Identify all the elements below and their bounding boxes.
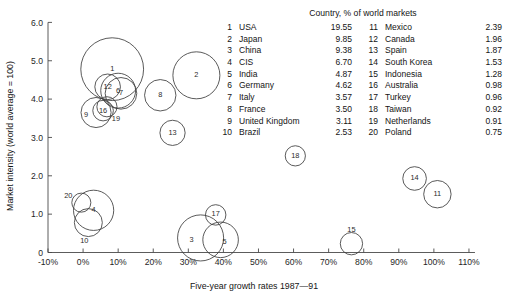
legend-row: 14South Korea1.53 [362, 57, 502, 68]
y-tick-label: 2.0 [31, 171, 43, 181]
y-tick-label: 5.0 [31, 56, 43, 66]
legend-value: 6.70 [326, 57, 352, 68]
legend-rank: 1 [216, 22, 232, 33]
bubble-label-5: 5 [223, 237, 227, 246]
legend-rank: 11 [362, 22, 378, 33]
bubble-label-16: 16 [99, 106, 107, 115]
legend-row: 16Australia0.98 [362, 80, 502, 91]
legend: Country, % of world markets 1USA19.552Ja… [216, 8, 504, 138]
bubble-chart: 1234567891011121314151617181920 -10%0%10… [0, 0, 508, 294]
x-tick-label: 90% [390, 257, 408, 267]
legend-rank: 13 [362, 45, 378, 56]
legend-value: 0.75 [476, 127, 502, 138]
legend-value: 1.87 [476, 45, 502, 56]
legend-value: 1.28 [476, 69, 502, 80]
legend-rank: 18 [362, 104, 378, 115]
legend-column-left: 1USA19.552Japan9.853China9.384CIS6.705In… [216, 22, 352, 138]
bubble-label-10: 10 [80, 236, 88, 245]
legend-row: 4CIS6.70 [216, 57, 352, 68]
legend-rank: 3 [216, 45, 232, 56]
legend-row: 15Indonesia1.28 [362, 69, 502, 80]
legend-country: Brazil [232, 127, 326, 138]
legend-value: 19.55 [326, 22, 352, 33]
legend-value: 3.57 [326, 92, 352, 103]
x-axis-tick-labels: -10%0%10%20%30%40%50%60%70%80%90%100%110… [38, 257, 480, 267]
legend-value: 3.50 [326, 104, 352, 115]
legend-value: 9.85 [326, 34, 352, 45]
legend-row: 12Canada1.96 [362, 34, 502, 45]
legend-country: Indonesia [378, 69, 476, 80]
bubble-label-11: 11 [434, 189, 442, 198]
legend-value: 4.87 [326, 69, 352, 80]
bubble-china [178, 215, 224, 261]
y-axis-tick-labels: 01.02.03.04.05.06.0 [31, 18, 43, 258]
legend-value: 0.92 [476, 104, 502, 115]
x-tick-label: 50% [250, 257, 268, 267]
x-tick-label: 10% [110, 257, 128, 267]
legend-row: 18Taiwan0.92 [362, 104, 502, 115]
legend-row: 8France3.50 [216, 104, 352, 115]
y-tick-label: 0 [38, 248, 43, 258]
legend-country: USA [232, 22, 326, 33]
bubble-label-1: 1 [110, 64, 114, 73]
legend-row: 20Poland0.75 [362, 127, 502, 138]
bubble-label-19: 19 [112, 114, 120, 123]
legend-row: 10Brazil2.53 [216, 127, 352, 138]
legend-column-right: 11Mexico2.3912Canada1.9613Spain1.8714Sou… [362, 22, 502, 138]
legend-country: Australia [378, 80, 476, 91]
legend-country: Japan [232, 34, 326, 45]
legend-row: 3China9.38 [216, 45, 352, 56]
legend-value: 9.38 [326, 45, 352, 56]
y-axis-title: Market intensity (world average = 100) [5, 61, 15, 211]
bubble-label-20: 20 [64, 191, 72, 200]
legend-country: France [232, 104, 326, 115]
legend-row: 5India4.87 [216, 69, 352, 80]
legend-rank: 17 [362, 92, 378, 103]
legend-rank: 8 [216, 104, 232, 115]
legend-row: 2Japan9.85 [216, 34, 352, 45]
bubble-label-14: 14 [410, 173, 418, 182]
x-tick-label: 0% [77, 257, 90, 267]
legend-row: 19Netherlands0.91 [362, 116, 502, 127]
legend-rank: 9 [216, 116, 232, 127]
legend-value: 2.53 [326, 127, 352, 138]
legend-value: 0.91 [476, 116, 502, 127]
bubble-label-9: 9 [84, 110, 88, 119]
legend-row: 9United Kingdom3.11 [216, 116, 352, 127]
legend-rank: 12 [362, 34, 378, 45]
legend-columns: 1USA19.552Japan9.853China9.384CIS6.705In… [216, 22, 504, 138]
bubble-label-12: 12 [104, 82, 112, 91]
legend-title: Country, % of world markets [216, 8, 504, 18]
y-tick-label: 1.0 [31, 209, 43, 219]
legend-rank: 5 [216, 69, 232, 80]
legend-row: 17Turkey0.96 [362, 92, 502, 103]
legend-rank: 20 [362, 127, 378, 138]
bubble-label-3: 3 [190, 235, 194, 244]
legend-country: Canada [378, 34, 476, 45]
legend-row: 11Mexico2.39 [362, 22, 502, 33]
legend-country: Italy [232, 92, 326, 103]
x-tick-label: 110% [458, 257, 480, 267]
x-axis-ticks [48, 249, 469, 253]
bubble-label-2: 2 [194, 70, 198, 79]
legend-rank: 7 [216, 92, 232, 103]
legend-country: Mexico [378, 22, 476, 33]
legend-country: Germany [232, 80, 326, 91]
legend-country: Poland [378, 127, 476, 138]
legend-rank: 14 [362, 57, 378, 68]
bubble-label-17: 17 [212, 209, 220, 218]
bubble-label-15: 15 [347, 225, 355, 234]
bubble-brazil [74, 209, 102, 237]
legend-country: Turkey [378, 92, 476, 103]
legend-value: 0.96 [476, 92, 502, 103]
y-axis-ticks [48, 22, 52, 252]
legend-row: 7Italy3.57 [216, 92, 352, 103]
legend-value: 3.11 [326, 116, 352, 127]
x-tick-label: 100% [423, 257, 445, 267]
x-axis-title: Five-year growth rates 1987—91 [190, 281, 318, 291]
legend-rank: 16 [362, 80, 378, 91]
bubble-label-8: 8 [158, 90, 162, 99]
legend-value: 0.98 [476, 80, 502, 91]
bubble-label-18: 18 [291, 151, 299, 160]
x-tick-label: 70% [320, 257, 338, 267]
